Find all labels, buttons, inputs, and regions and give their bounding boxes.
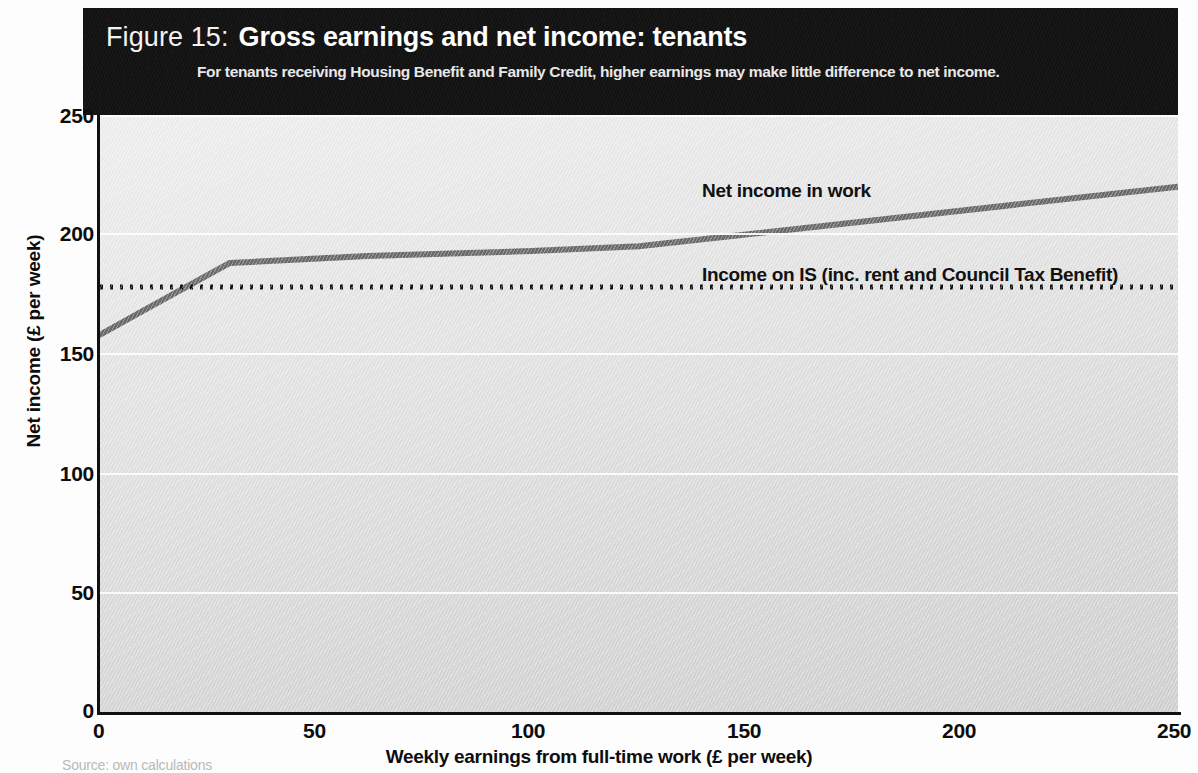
x-tick-100: 100 [511,720,545,741]
gridline-100 [100,473,1178,475]
page-title: Gross earnings and net income: tenants [239,22,748,52]
figure-subtitle: For tenants receiving Housing Benefit an… [197,63,999,81]
y-tick-0: 0 [83,700,94,721]
x-axis-line [97,712,1181,715]
annotation-net-income-in-work: Net income in work [702,180,871,202]
figure-title-row: Figure 15:Gross earnings and net income:… [106,22,747,53]
x-tick-150: 150 [727,720,761,741]
y-tick-200: 200 [60,223,94,244]
paper-texture [100,115,1178,712]
gridline-50 [100,592,1178,594]
y-tick-250: 250 [60,105,94,126]
gridline-150 [100,353,1178,355]
figure-header-band: Figure 15:Gross earnings and net income:… [83,8,1178,115]
x-tick-200: 200 [942,720,976,741]
y-tick-50: 50 [71,582,94,603]
x-tick-50: 50 [303,720,326,741]
gridline-250 [100,115,1178,117]
figure-page: Figure 15:Gross earnings and net income:… [0,0,1198,773]
y-tick-100: 100 [60,463,94,484]
plot-area [100,115,1178,712]
gridline-200 [100,233,1178,235]
x-tick-0: 0 [93,720,104,741]
figure-number: Figure 15: [106,22,229,52]
y-tick-150: 150 [60,343,94,364]
x-tick-250: 250 [1157,720,1191,741]
annotation-income-on-is: Income on IS (inc. rent and Council Tax … [702,264,1118,286]
y-axis-label: Net income (£ per week) [23,211,45,471]
source-note: Source: own calculations [62,757,212,773]
